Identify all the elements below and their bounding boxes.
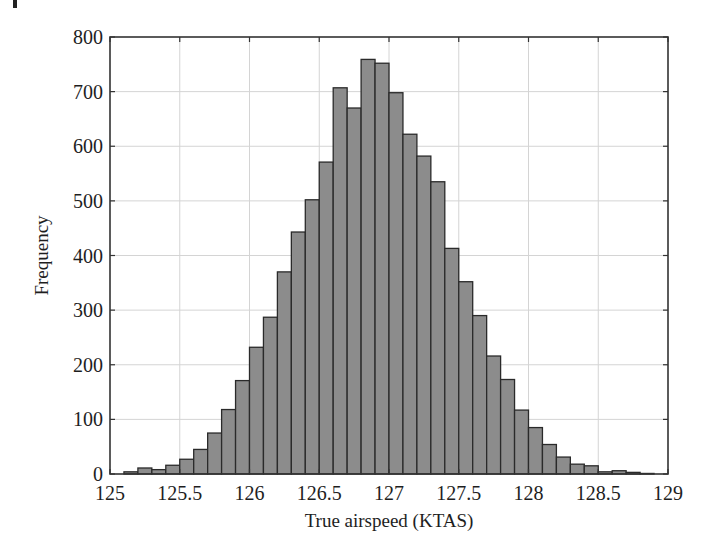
y-axis-tick-labels: 0100200300400500600700800 bbox=[73, 26, 103, 485]
histogram-bar bbox=[375, 63, 389, 474]
x-tick-label: 127 bbox=[374, 482, 404, 504]
histogram-bar bbox=[501, 379, 515, 474]
histogram-bar bbox=[515, 410, 529, 474]
y-tick-label: 600 bbox=[73, 135, 103, 157]
histogram-bar bbox=[473, 316, 487, 474]
histogram-bar bbox=[305, 200, 319, 474]
x-tick-label: 125.5 bbox=[157, 482, 202, 504]
histogram-bar bbox=[291, 232, 305, 474]
x-tick-label: 127.5 bbox=[436, 482, 481, 504]
x-axis-tick-labels: 125125.5126126.5127127.5128128.5129 bbox=[95, 482, 683, 504]
histogram-bar bbox=[403, 134, 417, 474]
histogram-bar bbox=[417, 156, 431, 474]
histogram-bar bbox=[347, 108, 361, 474]
x-tick-label: 128.5 bbox=[576, 482, 621, 504]
y-tick-label: 400 bbox=[73, 245, 103, 267]
y-tick-label: 100 bbox=[73, 408, 103, 430]
y-tick-label: 0 bbox=[93, 463, 103, 485]
histogram-bar bbox=[542, 445, 556, 474]
histogram-bar bbox=[277, 272, 291, 474]
y-tick-label: 500 bbox=[73, 190, 103, 212]
histogram-bar bbox=[487, 356, 501, 474]
histogram-bar bbox=[529, 428, 543, 474]
histogram-bar bbox=[180, 459, 194, 474]
histogram-bar bbox=[194, 449, 208, 474]
histogram-bar bbox=[333, 88, 347, 474]
histogram-bar bbox=[570, 464, 584, 474]
x-tick-label: 128 bbox=[514, 482, 544, 504]
y-tick-label: 800 bbox=[73, 26, 103, 48]
histogram-bar bbox=[389, 93, 403, 474]
histogram-bar bbox=[138, 468, 152, 474]
histogram-bar bbox=[263, 317, 277, 474]
x-tick-label: 126.5 bbox=[297, 482, 342, 504]
y-axis-title: Frequency bbox=[31, 215, 52, 296]
y-tick-label: 700 bbox=[73, 81, 103, 103]
histogram-bar bbox=[445, 248, 459, 474]
y-tick-label: 200 bbox=[73, 354, 103, 376]
y-tick-label: 300 bbox=[73, 299, 103, 321]
x-tick-label: 125 bbox=[95, 482, 125, 504]
histogram-bar bbox=[431, 182, 445, 474]
histogram-bar bbox=[361, 59, 375, 474]
x-axis-title: True airspeed (KTAS) bbox=[305, 510, 474, 532]
histogram-bar bbox=[208, 433, 222, 474]
histogram-bar bbox=[166, 465, 180, 474]
histogram-bar bbox=[236, 381, 250, 474]
histogram-bar bbox=[459, 282, 473, 474]
x-tick-label: 126 bbox=[235, 482, 265, 504]
histogram-bar bbox=[556, 457, 570, 474]
histogram-bars bbox=[124, 59, 654, 474]
histogram-bar bbox=[584, 466, 598, 474]
x-tick-label: 129 bbox=[653, 482, 683, 504]
histogram-chart: 125125.5126126.5127127.5128128.5129 0100… bbox=[0, 0, 713, 560]
histogram-bar bbox=[222, 410, 236, 474]
histogram-bar bbox=[319, 162, 333, 474]
histogram-bar bbox=[250, 347, 264, 474]
